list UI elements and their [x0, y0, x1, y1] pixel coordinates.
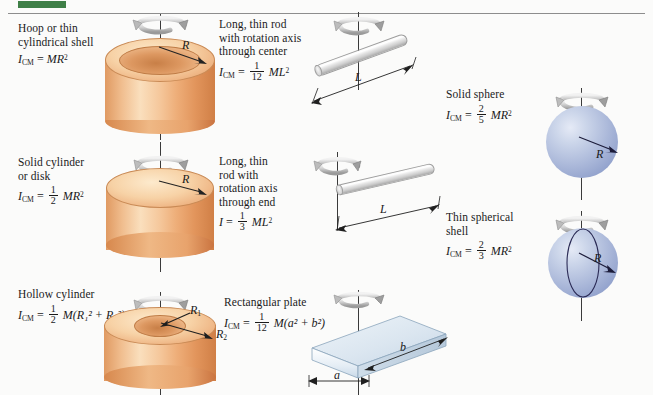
solid-cylinder-fraction: 1 2: [49, 185, 58, 207]
rod-center-formula: ICM = 1 12 ML2: [219, 62, 324, 84]
rotation-arrow-icon: [331, 13, 387, 37]
spherical-shell-subscript: CM: [450, 250, 462, 259]
hoop-radius-label: R: [182, 38, 189, 53]
spherical-shell-fraction-numerator: 2: [477, 240, 486, 250]
solid-cylinder-expression: MR: [63, 189, 80, 203]
solid-sphere-radius-label: R: [596, 147, 603, 162]
hoop-exponent: 2: [64, 53, 68, 62]
solid-sphere-expression: MR: [491, 108, 508, 122]
header-rule: [8, 13, 645, 14]
solid-cylinder-exponent: 2: [80, 190, 84, 199]
spherical-shell-caption-line-1: Thin spherical: [446, 211, 566, 225]
solid-sphere-formula: ICM = 2 5 MR2: [446, 105, 566, 127]
solid-cylinder-equals: =: [37, 189, 44, 203]
rod-center-expression: ML: [269, 65, 286, 79]
rod-end-caption-line-3: rotation axis: [219, 182, 311, 196]
hollow-cylinder-inner-radius-label: R1: [190, 303, 201, 318]
rod-end-fraction: 1 3: [238, 211, 247, 233]
spherical-shell-fraction: 2 3: [477, 240, 486, 262]
solid-sphere-fraction: 2 5: [477, 104, 486, 126]
rod-center-length-dimension: [310, 57, 420, 107]
rect-plate-side-b-label: b: [400, 340, 406, 355]
rod-center-caption-line-2: with rotation axis: [219, 32, 324, 46]
solid-sphere-subscript: CM: [450, 114, 462, 123]
hollow-cylinder-outer-radius-arrow-icon: [160, 322, 218, 344]
solid-cylinder-radius-label: R: [182, 172, 189, 187]
hollow-cylinder-fraction-numerator: 1: [49, 304, 58, 314]
rect-plate-side-a-label: a: [334, 368, 340, 383]
rect-plate-side-b-dimension: [362, 330, 452, 374]
solid-sphere-equals: =: [465, 108, 472, 122]
hollow-cylinder-subscript: CM: [22, 314, 34, 323]
hollow-cylinder-fraction: 1 2: [49, 304, 58, 326]
hollow-cylinder-equals: =: [37, 308, 44, 322]
solid-cylinder-fraction-numerator: 1: [49, 185, 58, 195]
rod-center-subscript: CM: [223, 71, 235, 80]
rod-end-fraction-numerator: 1: [238, 211, 247, 221]
rect-plate-subscript: CM: [228, 322, 240, 331]
rod-center-length-label: L: [355, 70, 362, 85]
green-accent-bar: [18, 1, 66, 8]
rod-center-fraction: 1 12: [250, 61, 264, 83]
rod-center-exponent: 2: [285, 66, 289, 75]
rod-end-expression: ML: [252, 215, 269, 229]
solid-sphere-fraction-numerator: 2: [477, 104, 486, 114]
solid-sphere-caption-line-1: Solid sphere: [446, 88, 566, 102]
rect-plate-caption-line-1: Rectangular plate: [224, 296, 404, 310]
spherical-shell-expression: MR: [491, 244, 508, 258]
entry-rod-center-text: Long, thin rod with rotation axis throug…: [219, 18, 324, 83]
rect-plate-equals: =: [243, 316, 250, 330]
rod-center-fraction-numerator: 1: [250, 61, 264, 71]
rod-end-fraction-denominator: 3: [238, 221, 247, 233]
rod-end-symbol: I: [219, 215, 223, 229]
hoop-equals: =: [37, 52, 44, 66]
spherical-shell-exponent: 2: [508, 245, 512, 254]
solid-cylinder-subscript: CM: [22, 195, 34, 204]
rod-end-length-dimension: [333, 190, 443, 236]
entry-solid-sphere-text: Solid sphere ICM = 2 5 MR2: [446, 88, 566, 126]
rod-end-equals: =: [226, 215, 233, 229]
rod-end-caption-line-2: rod with: [219, 169, 311, 183]
spherical-shell-fraction-denominator: 3: [477, 250, 486, 262]
rod-end-length-label: L: [380, 202, 387, 217]
hoop-subscript: CM: [22, 58, 34, 67]
spherical-shell-radius-label: R: [594, 251, 601, 266]
rod-center-equals: =: [238, 65, 245, 79]
spherical-shell-equals: =: [465, 244, 472, 258]
rod-center-caption-line-3: through center: [219, 45, 324, 59]
rotation-arrow-icon: [130, 11, 192, 37]
rod-end-formula: I = 1 3 ML2: [219, 212, 311, 234]
rod-center-fraction-denominator: 12: [250, 71, 264, 83]
hollow-cylinder-caption-line-1: Hollow cylinder: [18, 288, 208, 302]
hoop-caption-line-1: Hoop or thin: [18, 22, 138, 36]
entry-rod-end-text: Long, thin rod with rotation axis throug…: [219, 155, 311, 234]
rod-end-caption-line-1: Long, thin: [219, 155, 311, 169]
rect-plate-side-a-dimension: [308, 374, 372, 388]
solid-cylinder-fraction-denominator: 2: [49, 195, 58, 207]
rod-center-caption-line-1: Long, thin rod: [219, 18, 324, 32]
rod-end-exponent: 2: [269, 216, 273, 225]
solid-sphere-fraction-denominator: 5: [477, 114, 486, 126]
solid-sphere-exponent: 2: [508, 109, 512, 118]
hollow-cylinder-fraction-denominator: 2: [49, 314, 58, 326]
hoop-expression: MR: [47, 52, 64, 66]
rotation-arrow-icon: [312, 153, 364, 177]
rod-end-caption-line-4: through end: [219, 196, 311, 210]
moment-of-inertia-figure: Hoop or thin cylindrical shell ICM = MR2…: [0, 0, 653, 395]
